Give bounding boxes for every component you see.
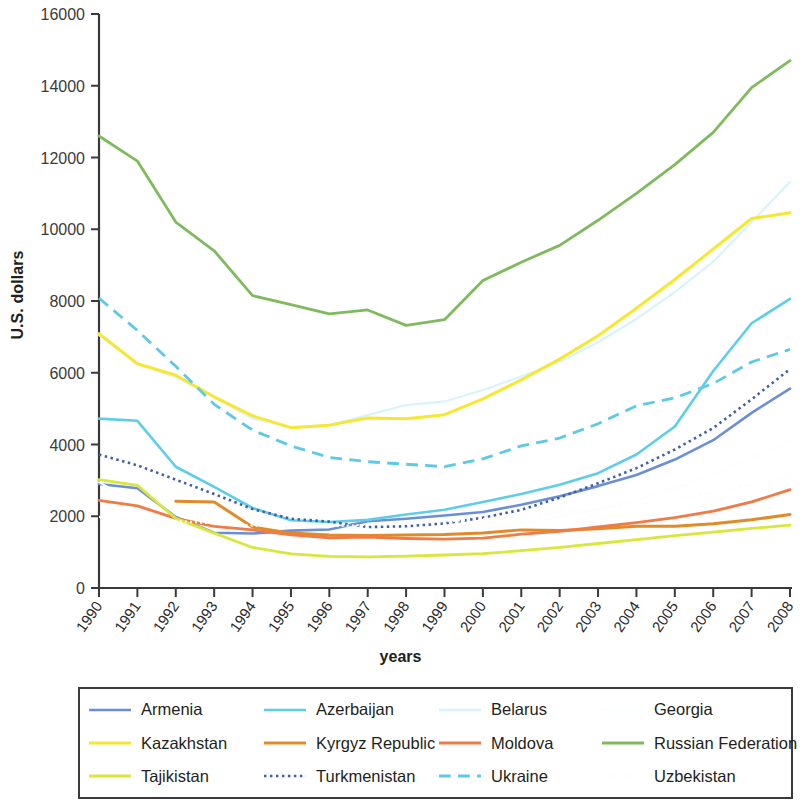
x-axis-tick-label: 2004	[610, 598, 643, 635]
legend-label: Moldova	[491, 735, 553, 752]
legend-swatch-icon	[438, 769, 482, 783]
legend-swatch-icon	[438, 736, 482, 750]
x-axis-tick-label: 1991	[111, 598, 144, 635]
x-axis-tick-label: 2003	[571, 598, 604, 635]
line-chart-svg: 0200040006000800010000120001400016000199…	[0, 0, 801, 690]
legend-item-armenia[interactable]: Armenia	[88, 693, 263, 726]
legend-item-tajikistan[interactable]: Tajikistan	[88, 760, 263, 793]
legend-label: Turkmenistan	[316, 768, 415, 785]
legend-item-moldova[interactable]: Moldova	[438, 726, 601, 759]
series-line-tajikistan	[99, 480, 790, 557]
y-axis-tick-label: 12000	[41, 150, 86, 167]
legend-item-russian-federation[interactable]: Russian Federation	[601, 726, 799, 759]
x-axis-title: years	[0, 648, 801, 666]
x-axis-tick-label: 1996	[303, 598, 336, 635]
legend-label: Uzbekistan	[654, 768, 736, 785]
y-axis-tick-label: 16000	[41, 6, 86, 23]
x-axis-tick-label: 1997	[341, 598, 374, 635]
y-axis-tick-label: 4000	[49, 437, 85, 454]
x-axis-tick-label: 2001	[495, 598, 528, 635]
legend-label: Belarus	[491, 701, 547, 718]
legend-label: Russian Federation	[654, 735, 797, 752]
legend-label: Armenia	[141, 701, 202, 718]
y-axis-tick-label: 0	[76, 580, 85, 597]
legend-item-ukraine[interactable]: Ukraine	[438, 760, 601, 793]
legend-swatch-icon	[88, 769, 132, 783]
series-line-ukraine	[99, 298, 790, 467]
legend-label: Azerbaijan	[316, 701, 394, 718]
x-axis-tick-label: 1992	[149, 598, 182, 635]
legend-item-kazakhstan[interactable]: Kazakhstan	[88, 726, 263, 759]
legend-label: Tajikistan	[141, 768, 209, 785]
legend-label: Ukraine	[491, 768, 548, 785]
x-axis-tick-label: 2005	[648, 598, 681, 635]
legend-swatch-icon	[601, 703, 645, 717]
figure-container: 0200040006000800010000120001400016000199…	[0, 0, 801, 808]
y-axis-tick-label: 8000	[49, 293, 85, 310]
legend-label: Georgia	[654, 701, 713, 718]
x-axis-tick-label: 2006	[687, 598, 720, 635]
x-axis-tick-label: 2008	[763, 598, 796, 635]
x-axis-tick-label: 1998	[379, 598, 412, 635]
legend-swatch-icon	[263, 769, 307, 783]
y-axis-tick-label: 14000	[41, 78, 86, 95]
legend-item-azerbaijan[interactable]: Azerbaijan	[263, 693, 438, 726]
x-axis-tick-label: 1999	[418, 598, 451, 635]
legend-grid: ArmeniaAzerbaijanBelarusGeorgiaKazakhsta…	[80, 689, 791, 797]
legend-item-uzbekistan[interactable]: Uzbekistan	[601, 760, 799, 793]
legend-item-kyrgyz-republic[interactable]: Kyrgyz Republic	[263, 726, 438, 759]
legend-item-georgia[interactable]: Georgia	[601, 693, 799, 726]
legend-label: Kyrgyz Republic	[316, 735, 435, 752]
plot-area: 0200040006000800010000120001400016000199…	[0, 0, 801, 690]
legend-swatch-icon	[601, 736, 645, 750]
x-axis-tick-label: 1994	[226, 598, 259, 635]
legend-swatch-icon	[438, 703, 482, 717]
legend-swatch-icon	[88, 703, 132, 717]
legend-item-turkmenistan[interactable]: Turkmenistan	[263, 760, 438, 793]
legend-label: Kazakhstan	[141, 735, 227, 752]
x-axis-tick-label: 2000	[456, 598, 489, 635]
legend-swatch-icon	[263, 736, 307, 750]
x-axis-tick-label: 1995	[264, 598, 297, 635]
legend-item-belarus[interactable]: Belarus	[438, 693, 601, 726]
legend-swatch-icon	[263, 703, 307, 717]
legend-swatch-icon	[88, 736, 132, 750]
y-axis-tick-label: 6000	[49, 365, 85, 382]
x-axis-tick-label: 1993	[188, 598, 221, 635]
x-axis-tick-label: 2002	[533, 598, 566, 635]
legend: ArmeniaAzerbaijanBelarusGeorgiaKazakhsta…	[78, 687, 793, 799]
y-axis-tick-label: 2000	[49, 508, 85, 525]
legend-swatch-icon	[601, 769, 645, 783]
y-axis-tick-label: 10000	[41, 221, 86, 238]
series-line-russian-federation	[99, 61, 790, 326]
x-axis-tick-label: 2007	[725, 598, 758, 635]
x-axis-tick-label: 1990	[72, 598, 105, 635]
